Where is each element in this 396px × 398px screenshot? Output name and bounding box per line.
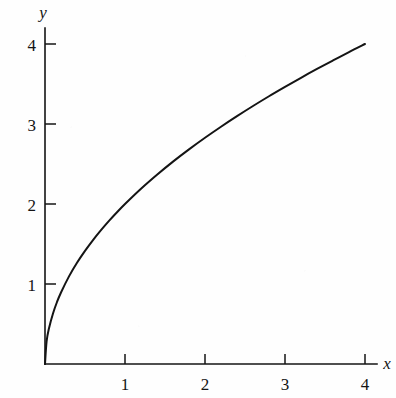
y-tick-label-2: 2 <box>28 196 37 215</box>
data-curve <box>45 44 365 364</box>
y-tick-label-4: 4 <box>28 36 37 55</box>
x-tick-label-2: 2 <box>201 375 210 394</box>
y-tick-label-3: 3 <box>28 116 37 135</box>
x-tick-label-1: 1 <box>121 375 130 394</box>
y-tick-label-1: 1 <box>28 276 37 295</box>
x-tick-label-4: 4 <box>361 375 370 394</box>
x-tick-label-3: 3 <box>281 375 290 394</box>
chart-figure: 1 2 3 4 1 2 3 4 y x <box>0 0 396 398</box>
plot-canvas: 1 2 3 4 1 2 3 4 y x <box>0 0 396 398</box>
y-axis-label: y <box>37 3 47 22</box>
x-axis-label: x <box>382 354 391 373</box>
